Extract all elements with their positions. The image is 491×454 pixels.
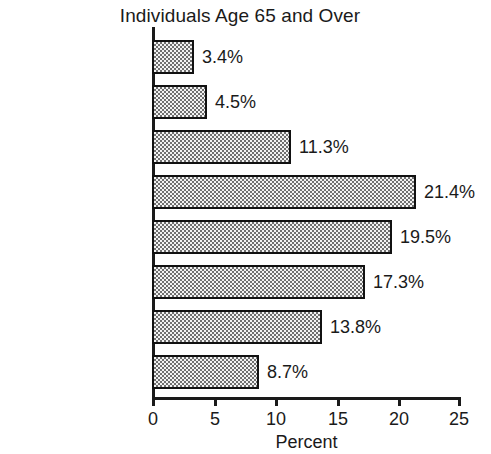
x-axis-tick-label: 0 (148, 409, 158, 430)
plot-area: Under $3,000 3.4% $3,000-$3,999 4.5% $4,… (0, 0, 491, 454)
bar[interactable] (152, 265, 365, 299)
bar[interactable] (152, 220, 392, 254)
value-label: 3.4% (202, 47, 243, 68)
x-axis-tick-label: 15 (328, 409, 348, 430)
value-label: 4.5% (215, 92, 256, 113)
value-label: 8.7% (267, 362, 308, 383)
x-axis-tick (214, 397, 217, 406)
x-axis-tick (337, 397, 340, 406)
bar[interactable] (152, 130, 291, 164)
x-axis-tick (275, 397, 278, 406)
x-axis-title: Percent (152, 432, 461, 453)
x-axis-tick (398, 397, 401, 406)
x-axis-tick-label: 5 (210, 409, 220, 430)
x-axis-tick (458, 397, 461, 406)
bar[interactable] (152, 40, 194, 74)
x-axis-tick-label: 20 (389, 409, 409, 430)
value-label: 17.3% (373, 272, 424, 293)
bar[interactable] (152, 310, 322, 344)
y-axis-line (152, 27, 155, 400)
value-label: 21.4% (424, 182, 475, 203)
value-label: 11.3% (299, 137, 349, 158)
x-axis-tick (152, 397, 155, 406)
x-axis-tick-label: 25 (449, 409, 469, 430)
bar[interactable] (152, 355, 259, 389)
bar[interactable] (152, 175, 416, 209)
x-axis-tick-label: 10 (266, 409, 286, 430)
x-axis-line (152, 397, 461, 400)
bar-chart: Individuals Age 65 and Over Under $3,000… (0, 0, 491, 454)
value-label: 13.8% (330, 317, 381, 338)
value-label: 19.5% (400, 227, 451, 248)
bar[interactable] (152, 85, 207, 119)
